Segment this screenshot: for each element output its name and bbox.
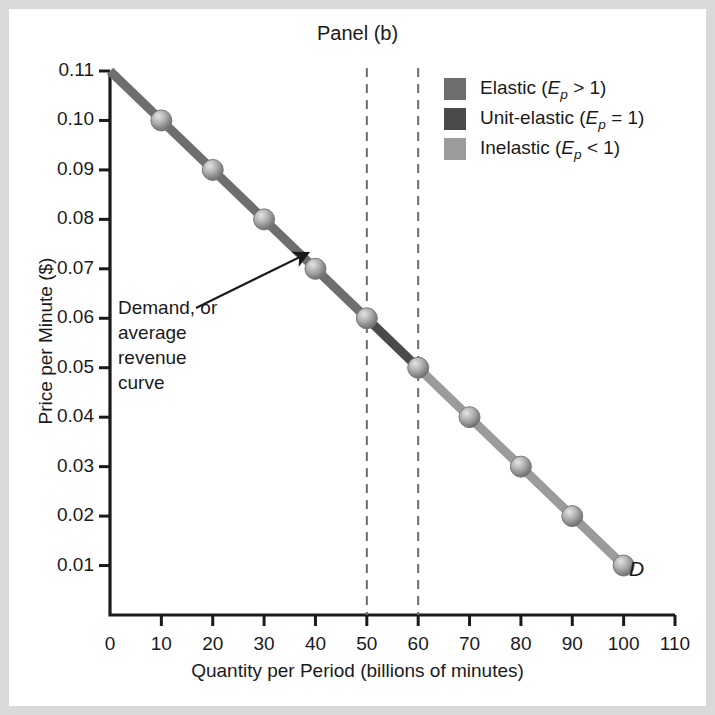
y-tick-label: 0.02 (30, 504, 94, 526)
legend-swatch-unit-elastic (444, 108, 466, 130)
demand-curve-annotation: Demand, or average revenue curve (118, 295, 217, 395)
x-tick-label: 40 (290, 633, 340, 655)
legend-swatch-elastic (444, 78, 466, 100)
y-axis-label: Price per Minute ($) (35, 201, 57, 481)
y-tick-label: 0.11 (30, 59, 94, 81)
curve-label-d: D (629, 557, 644, 581)
x-tick-label: 110 (650, 633, 700, 655)
x-tick-label: 70 (445, 633, 495, 655)
figure-panel-b: Panel (b) 0.010.020.030.040.050.060.070.… (0, 0, 715, 715)
x-tick-label: 30 (239, 633, 289, 655)
y-tick-label: 0.10 (30, 108, 94, 130)
x-tick-label: 100 (599, 633, 649, 655)
legend-item-unit-elastic: Unit-elastic (Ep = 1) (444, 104, 644, 134)
chart-legend: Elastic (Ep > 1)Unit-elastic (Ep = 1)Ine… (444, 74, 644, 164)
x-tick-label: 80 (496, 633, 546, 655)
legend-label-elastic: Elastic (Ep > 1) (480, 77, 606, 102)
x-tick-label: 90 (547, 633, 597, 655)
legend-item-inelastic: Inelastic (Ep < 1) (444, 134, 644, 164)
y-tick-label: 0.01 (30, 554, 94, 576)
x-tick-label: 60 (393, 633, 443, 655)
legend-label-inelastic: Inelastic (Ep < 1) (480, 137, 620, 162)
legend-label-unit-elastic: Unit-elastic (Ep = 1) (480, 107, 644, 132)
x-tick-label: 0 (85, 633, 135, 655)
x-axis-label: Quantity per Period (billions of minutes… (0, 660, 715, 682)
x-tick-label: 10 (136, 633, 186, 655)
x-tick-label: 20 (188, 633, 238, 655)
legend-item-elastic: Elastic (Ep > 1) (444, 74, 644, 104)
x-tick-label: 50 (342, 633, 392, 655)
y-tick-label: 0.09 (30, 158, 94, 180)
legend-swatch-inelastic (444, 138, 466, 160)
